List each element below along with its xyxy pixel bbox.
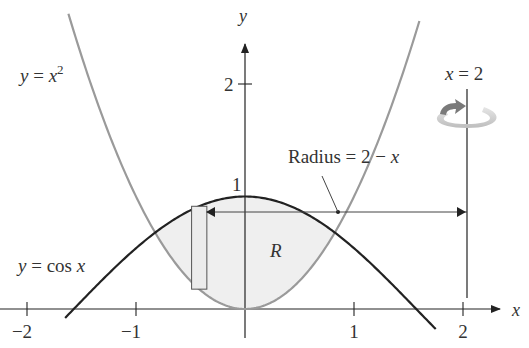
parabola-label: y = x2 — [18, 62, 64, 86]
y-axis-ticks: 12 — [224, 74, 252, 195]
x-tick-label: −2 — [12, 321, 32, 342]
diagram-canvas: −2−112 12 x y y = x2 y = cos x R Radius … — [0, 0, 529, 348]
radius-arrow-head-right — [457, 207, 466, 217]
y-tick-label: 1 — [232, 174, 242, 195]
sample-rectangle — [192, 206, 207, 289]
y-tick-label: 2 — [224, 74, 234, 95]
x-tick-label: −1 — [121, 321, 141, 342]
x-axis-label: x — [511, 300, 520, 320]
x-tick-label: 2 — [458, 321, 468, 342]
diagram-svg: −2−112 12 x y y = x2 y = cos x R Radius … — [0, 0, 529, 348]
cosine-label: y = cos x — [16, 255, 86, 276]
radius-label: Radius = 2 − x — [288, 146, 400, 167]
y-axis-label: y — [237, 6, 247, 26]
radius-leader-line — [322, 176, 338, 212]
axis-of-rotation-label: x = 2 — [444, 63, 483, 84]
region-label: R — [269, 240, 282, 261]
x-tick-label: 1 — [349, 321, 359, 342]
